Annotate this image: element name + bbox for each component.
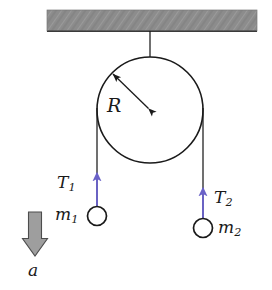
tension-left-label: T1: [57, 174, 75, 191]
radius-label: R: [107, 96, 121, 115]
acceleration-label: a: [28, 262, 38, 279]
tension-left-label-base: T: [57, 172, 68, 192]
acceleration-arrow-shape: [23, 212, 48, 256]
diagram-canvas: [0, 0, 272, 290]
ceiling-support-bar: [47, 10, 257, 31]
mass-right-label-base: m: [218, 217, 234, 237]
tension-right-label-sub: 2: [226, 196, 233, 209]
mass-left: [88, 207, 107, 226]
mass-right-label-sub: 2: [234, 226, 241, 239]
tension-right-label: T2: [214, 189, 232, 206]
mass-left-label-base: m: [55, 204, 71, 224]
ceiling-bar-fill: [47, 10, 257, 31]
physics-diagram-figure: R T1 m1 T2 m2 a: [0, 0, 272, 290]
tension-left-label-sub: 1: [69, 181, 76, 194]
acceleration-label-text: a: [28, 260, 38, 280]
tension-right-label-base: T: [214, 187, 225, 207]
mass-left-label: m1: [55, 206, 78, 223]
radius-label-text: R: [107, 94, 121, 116]
mass-right: [194, 219, 213, 238]
mass-right-label: m2: [218, 219, 241, 236]
acceleration-block-arrow: [23, 212, 48, 256]
mass-left-label-sub: 1: [71, 213, 78, 226]
